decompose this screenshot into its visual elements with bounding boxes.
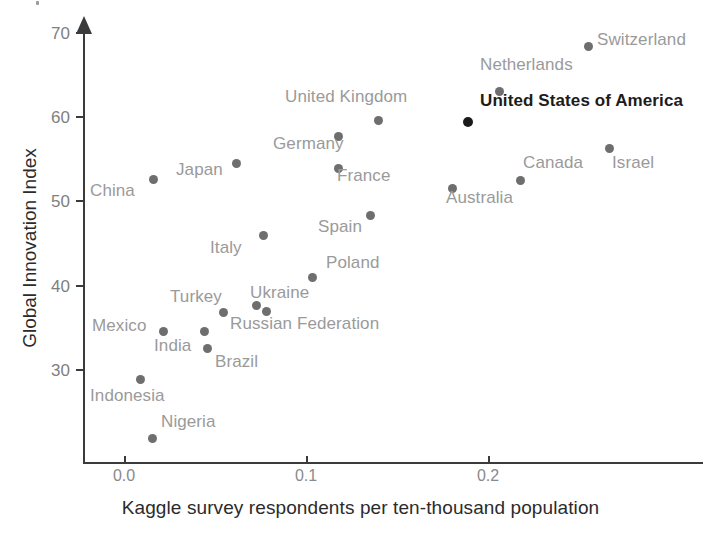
- data-point[interactable]: [149, 175, 158, 184]
- x-tick-label: 0.2: [458, 468, 518, 484]
- x-tick: [124, 456, 126, 463]
- data-point[interactable]: [584, 42, 593, 51]
- data-point-label: Australia: [446, 189, 513, 206]
- data-point[interactable]: [374, 116, 383, 125]
- data-point-label: Mexico: [92, 317, 146, 334]
- data-point[interactable]: [605, 144, 614, 153]
- data-point-label: Israel: [612, 154, 654, 171]
- data-point-label: United Kingdom: [285, 88, 407, 105]
- data-point[interactable]: [159, 327, 168, 336]
- data-point-label: China: [90, 182, 135, 199]
- data-point-label: Germany: [273, 135, 344, 152]
- data-point-label: Indonesia: [90, 387, 165, 404]
- data-point-label: Switzerland: [597, 31, 686, 48]
- data-point-label: Spain: [318, 218, 362, 235]
- data-point[interactable]: [219, 308, 228, 317]
- y-tick: [76, 369, 83, 371]
- data-point-label: Nigeria: [161, 413, 216, 430]
- data-point-label: Russian Federation: [230, 315, 379, 332]
- data-point[interactable]: [136, 375, 145, 384]
- x-axis-title: Kaggle survey respondents per ten-thousa…: [0, 497, 721, 519]
- data-point[interactable]: [259, 231, 268, 240]
- y-tick-label: 70: [26, 25, 70, 42]
- data-point-label: United States of America: [480, 92, 683, 109]
- data-point[interactable]: [366, 211, 375, 220]
- scatter-chart: 30405060700.00.10.2 SwitzerlandNetherlan…: [0, 0, 721, 541]
- data-point[interactable]: [148, 434, 157, 443]
- y-tick: [76, 200, 83, 202]
- x-tick-label: 0.0: [94, 468, 154, 484]
- data-point-label: Japan: [176, 161, 223, 178]
- data-point[interactable]: [232, 159, 241, 168]
- data-point-label: Italy: [210, 239, 242, 256]
- y-axis-title: Global Innovation Index: [19, 48, 41, 448]
- plot-area: 30405060700.00.10.2 SwitzerlandNetherlan…: [0, 0, 721, 541]
- x-tick: [488, 456, 490, 463]
- data-point-label: Turkey: [170, 288, 222, 305]
- data-point-label: Ukraine: [250, 284, 309, 301]
- data-point-label: Poland: [326, 254, 380, 271]
- data-point-label: Netherlands: [480, 56, 573, 73]
- data-point[interactable]: [200, 327, 209, 336]
- data-point[interactable]: [203, 344, 212, 353]
- y-axis-line: [83, 30, 85, 464]
- y-tick: [76, 285, 83, 287]
- data-point[interactable]: [308, 273, 317, 282]
- data-point[interactable]: [463, 117, 473, 127]
- x-tick: [306, 456, 308, 463]
- x-tick-label: 0.1: [276, 468, 336, 484]
- x-axis-line: [83, 462, 703, 464]
- data-point-label: India: [154, 337, 191, 354]
- data-point-label: France: [337, 167, 391, 184]
- data-point[interactable]: [516, 176, 525, 185]
- data-point-label: Canada: [523, 154, 583, 171]
- data-point-label: Brazil: [215, 353, 258, 370]
- y-tick: [76, 32, 83, 34]
- y-tick: [76, 116, 83, 118]
